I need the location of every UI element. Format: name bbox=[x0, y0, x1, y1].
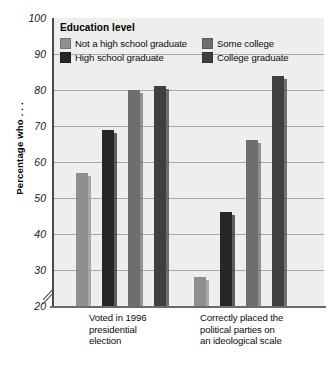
bar-face bbox=[246, 140, 258, 306]
bar-side bbox=[114, 133, 117, 306]
bar bbox=[272, 76, 287, 306]
legend-item: College graduate bbox=[202, 52, 318, 63]
bar-face bbox=[220, 212, 232, 306]
y-axis-tick: 40 bbox=[6, 228, 48, 240]
y-axis-tick: 60 bbox=[6, 156, 48, 168]
legend-swatch-icon bbox=[60, 38, 71, 49]
legend-item-label: College graduate bbox=[217, 52, 288, 63]
legend: Education level Not a high school gradua… bbox=[60, 22, 318, 64]
bar-face bbox=[194, 277, 206, 306]
legend-item-label: High school graduate bbox=[75, 52, 164, 63]
bar bbox=[128, 90, 143, 306]
category-label-0: Voted in 1996presidentialelection bbox=[89, 312, 146, 347]
legend-item: Some college bbox=[202, 38, 318, 49]
bar-face bbox=[272, 76, 284, 306]
y-axis-tick: 100 bbox=[6, 12, 48, 24]
bar-side bbox=[232, 215, 235, 306]
y-axis-tick: 50 bbox=[6, 192, 48, 204]
x-axis-line bbox=[50, 306, 326, 308]
y-axis-tick: 80 bbox=[6, 84, 48, 96]
bar-face bbox=[128, 90, 140, 306]
bar-side bbox=[258, 143, 261, 306]
bar-side bbox=[284, 79, 287, 306]
bar bbox=[220, 212, 235, 306]
bar-face bbox=[102, 130, 114, 306]
category-label-line: election bbox=[89, 335, 146, 347]
category-label-line: an ideological scale bbox=[200, 335, 283, 347]
y-axis-tick-labels: 1009080706050403020 bbox=[8, 0, 48, 369]
legend-swatch-icon bbox=[202, 52, 213, 63]
y-axis-tick: 70 bbox=[6, 120, 48, 132]
bar bbox=[246, 140, 261, 306]
bar-face bbox=[76, 173, 88, 306]
legend-swatch-icon bbox=[60, 52, 71, 63]
bar-face bbox=[154, 86, 166, 306]
bar bbox=[102, 130, 117, 306]
bar-chart-figure: Percentage who . . . 1009080706050403020… bbox=[0, 0, 331, 369]
bar bbox=[194, 277, 209, 306]
bar bbox=[154, 86, 169, 306]
category-label-1: Correctly placed thepolitical parties on… bbox=[200, 312, 283, 347]
category-label-line: Correctly placed the bbox=[200, 312, 283, 324]
y-axis-tick: 90 bbox=[6, 48, 48, 60]
y-axis-tick: 30 bbox=[6, 264, 48, 276]
legend-items: Not a high school graduateSome collegeHi… bbox=[60, 36, 318, 64]
category-label-line: presidential bbox=[89, 324, 146, 336]
bar-side bbox=[88, 176, 91, 306]
bar-side bbox=[166, 89, 169, 306]
category-label-line: political parties on bbox=[200, 324, 283, 336]
legend-item: Not a high school graduate bbox=[60, 38, 202, 49]
category-label-line: Voted in 1996 bbox=[89, 312, 146, 324]
legend-item-label: Some college bbox=[217, 38, 274, 49]
legend-swatch-icon bbox=[202, 38, 213, 49]
bar-side bbox=[206, 280, 209, 306]
legend-title: Education level bbox=[60, 22, 318, 33]
bar-side bbox=[140, 93, 143, 306]
legend-item-label: Not a high school graduate bbox=[75, 38, 187, 49]
bar bbox=[76, 173, 91, 306]
legend-item: High school graduate bbox=[60, 52, 202, 63]
